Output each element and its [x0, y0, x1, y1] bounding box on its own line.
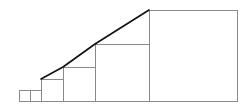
fibonacci-square-6	[150, 11, 238, 102]
fibonacci-diagram	[0, 0, 251, 110]
diagram-svg	[0, 0, 251, 110]
fibonacci-square-1	[20, 91, 31, 102]
squares-group	[20, 11, 238, 102]
fibonacci-square-2	[31, 91, 42, 102]
fibonacci-square-5	[96, 45, 150, 102]
fibonacci-square-4	[64, 68, 96, 102]
fibonacci-square-3	[42, 80, 64, 102]
